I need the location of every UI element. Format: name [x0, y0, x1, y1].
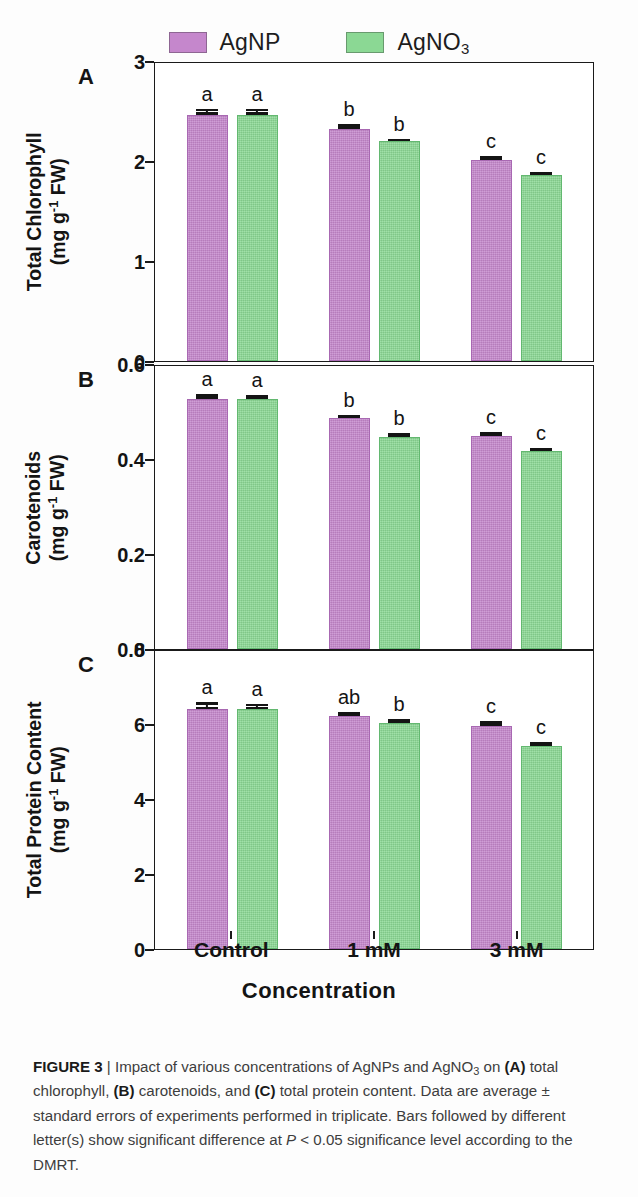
panel-c-significance-letter: b	[393, 693, 404, 716]
panel-b-y-tick-mark	[145, 554, 154, 556]
panel-a-significance-letter: b	[343, 98, 354, 121]
panel-a-y-tick-label: 3	[134, 51, 145, 74]
panel-b-carotenoids: B Carotenoids (mg g-1 FW) 0.00.20.40.6 a…	[0, 365, 638, 650]
panel-b-bar-agnp[interactable]	[329, 418, 370, 649]
panel-c-bar-group: aa	[187, 651, 278, 949]
panel-b-bar-agnp[interactable]	[187, 399, 228, 649]
panel-b-significance-letter: b	[343, 389, 354, 412]
panel-a-y-units-exponent: -1	[45, 201, 60, 213]
x-tick-group: Control	[186, 938, 277, 962]
panel-a-significance-letter: c	[536, 146, 546, 169]
panel-a-y-axis-label: Total Chlorophyll (mg g-1 FW)	[0, 62, 92, 362]
panel-a-y-tick-mark	[145, 261, 154, 263]
panel-b-bar-agnp[interactable]	[471, 436, 512, 649]
panel-a-bar-slot-agno3: a	[237, 63, 278, 361]
panel-c-significance-letter: c	[486, 695, 496, 718]
panel-b-y-units-post: FW)	[46, 454, 68, 496]
panel-c-y-tick-mark	[145, 649, 154, 651]
chart-legend: AgNP AgNO3	[0, 22, 638, 62]
panel-a-y-tick-label: 2	[134, 151, 145, 174]
x-axis-title: Concentration	[0, 978, 638, 1004]
panel-c-y-units-exponent: -1	[45, 789, 60, 801]
panel-a-bar-agnp[interactable]	[187, 115, 228, 361]
green-square-swatch-icon	[346, 32, 384, 53]
panel-c-bar-agnp[interactable]	[329, 716, 370, 949]
panel-b-y-tick-label: 0.6	[117, 354, 145, 377]
purple-square-swatch-icon	[169, 32, 207, 53]
panel-a-bar-agno3[interactable]	[237, 115, 278, 361]
panel-c-y-tick-mark	[145, 874, 154, 876]
x-axis-category-labels: Control1 mM3 mM	[154, 938, 594, 972]
panel-a-y-tick-mark	[145, 161, 154, 163]
panel-c-y-tick-label: 6	[134, 714, 145, 737]
panel-c-significance-letter: c	[536, 716, 546, 739]
panel-b-bar-slot-agnp: c	[471, 366, 512, 649]
panel-c-bar-agno3[interactable]	[379, 723, 420, 949]
panel-c-bar-slot-agno3: b	[379, 651, 420, 949]
panel-a-bar-slot-agnp: b	[329, 63, 370, 361]
panel-c-y-axis-label: Total Protein Content (mg g-1 FW)	[0, 650, 92, 950]
figure-caption: FIGURE 3 | Impact of various concentrati…	[33, 1055, 607, 1177]
panel-b-bar-slot-agnp: a	[187, 366, 228, 649]
panel-c-y-tick-mark	[145, 724, 154, 726]
panel-b-y-tick-label: 0.2	[117, 544, 145, 567]
x-tick-label-1-mm: 1 mM	[328, 938, 419, 962]
panel-c-bar-agno3[interactable]	[237, 709, 278, 949]
panel-b-bar-slot-agno3: b	[379, 366, 420, 649]
panel-c-bars: aaabbcc	[155, 651, 593, 949]
panel-a-y-tick-label: 1	[134, 251, 145, 274]
figure-container: AgNP AgNO3 A Total Chlorophyll (mg g-1 F…	[0, 0, 638, 1197]
panel-c-significance-letter: a	[201, 676, 212, 699]
panel-a-significance-letter: a	[201, 83, 212, 106]
panel-b-significance-letter: a	[201, 368, 212, 391]
panel-c-bar-group: cc	[471, 651, 562, 949]
caption-text-2: on	[479, 1058, 504, 1075]
panel-a-bar-group: bb	[329, 63, 420, 361]
panel-b-y-tick-mark	[145, 459, 154, 461]
panel-c-total-protein-content: C Total Protein Content (mg g-1 FW) 0246…	[0, 650, 638, 950]
panel-c-bar-slot-agnp: c	[471, 651, 512, 949]
legend-label-agnp: AgNP	[220, 29, 281, 56]
x-tick-mark	[230, 931, 232, 939]
caption-bold-b: (B)	[114, 1082, 135, 1099]
panel-c-bar-agnp[interactable]	[471, 726, 512, 950]
panel-c-y-tick-label: 2	[134, 864, 145, 887]
panel-a-bar-slot-agnp: a	[187, 63, 228, 361]
panel-c-bar-group: abb	[329, 651, 420, 949]
panel-b-bar-agno3[interactable]	[237, 399, 278, 649]
panel-a-y-ticks: 0123	[92, 62, 154, 362]
panel-a-bar-agnp[interactable]	[471, 160, 512, 361]
panel-c-bar-slot-agnp: a	[187, 651, 228, 949]
panel-b-y-units-exponent: -1	[45, 496, 60, 508]
legend-label-agno3-subscript: 3	[461, 40, 470, 57]
panel-b-y-tick-label: 0.4	[117, 449, 145, 472]
panel-c-y-tick-mark	[145, 949, 154, 951]
panel-c-y-tick-label: 0	[134, 939, 145, 962]
panel-a-bar-group: aa	[187, 63, 278, 361]
panel-b-bar-agno3[interactable]	[379, 437, 420, 649]
panel-a-bars: aabbcc	[155, 63, 593, 361]
x-tick-label-3-mm: 3 mM	[471, 938, 562, 962]
panel-a-y-units-post: FW)	[46, 159, 68, 201]
x-tick-mark	[373, 931, 375, 939]
panel-a-y-units-pre: (mg g	[46, 212, 68, 265]
panel-b-plot-area: aabbcc	[154, 365, 594, 650]
panel-c-bar-agno3[interactable]	[521, 746, 562, 949]
legend-entry-agnp: AgNP	[169, 29, 281, 56]
panel-b-y-ticks: 0.00.20.40.6	[92, 365, 154, 650]
panel-a-total-chlorophyll: A Total Chlorophyll (mg g-1 FW) 0123 aab…	[0, 62, 638, 362]
panel-c-y-units-pre: (mg g	[46, 800, 68, 853]
panel-b-significance-letter: c	[486, 406, 496, 429]
caption-italic-p: P	[286, 1131, 296, 1148]
panel-b-bar-agno3[interactable]	[521, 451, 562, 649]
panel-a-bar-agno3[interactable]	[379, 141, 420, 361]
panel-b-bar-slot-agnp: b	[329, 366, 370, 649]
panel-a-bar-agnp[interactable]	[329, 129, 370, 361]
panel-a-significance-letter: c	[486, 130, 496, 153]
panel-b-significance-letter: b	[393, 407, 404, 430]
panel-b-bars: aabbcc	[155, 366, 593, 649]
panel-c-bar-agnp[interactable]	[187, 709, 228, 949]
panel-a-y-tick-mark	[145, 61, 154, 63]
panel-a-y-tick-mark	[145, 361, 154, 363]
panel-a-bar-agno3[interactable]	[521, 175, 562, 361]
